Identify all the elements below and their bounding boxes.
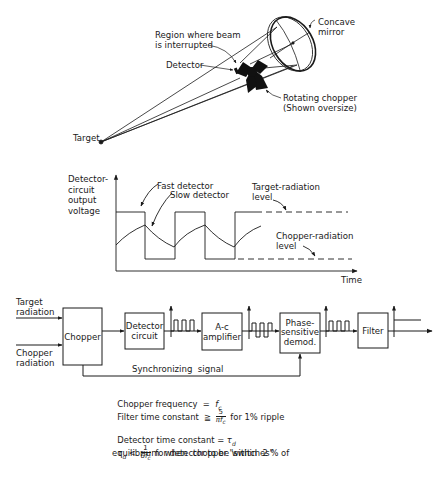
filter-block: Filter (358, 313, 388, 348)
waveform-chart (116, 175, 357, 271)
target-radiation-input-label: Target radiation (16, 297, 54, 317)
rotating-chopper-label: Rotating chopper (Shown oversize) (283, 93, 357, 113)
ac-amplifier-block: A-c amplifier (202, 313, 242, 350)
slow-detector-trace (116, 225, 261, 247)
sync-signal-label: Synchronizing signal (132, 364, 223, 374)
beam-line (101, 78, 240, 142)
detector-circuit-block: Detector circuit (125, 313, 164, 349)
phase-demod-block: Phase- sensitive demod. (280, 313, 320, 353)
chopper-radiation-input-label: Chopper radiation (16, 348, 54, 368)
chopper-radiation-level-label: Chopper-radiation level (276, 231, 353, 251)
beam-line (101, 65, 297, 142)
target-radiation-level-label: Target-radiation level (252, 182, 320, 202)
target-label: Target (73, 133, 100, 143)
slow-detector-label: Slow detector (170, 190, 229, 200)
concave-mirror-label: Concave mirror (318, 17, 355, 37)
rotating-chopper-icon (236, 60, 268, 93)
y-axis-label: Detector- circuit output voltage (68, 174, 108, 216)
chopper-block: Chopper (63, 308, 102, 365)
detector-label: Detector (166, 60, 203, 70)
filter-time-constant-note: Filter time constant ≧ 5πfc for 1% rippl… (112, 398, 284, 426)
region-interrupted-label: Region where beam is interrupted (155, 30, 241, 50)
equilibrium-note: equilibrium when chopper "switches" (112, 448, 273, 459)
fast-detector-trace (116, 212, 256, 259)
x-axis-label: Time (341, 275, 362, 285)
